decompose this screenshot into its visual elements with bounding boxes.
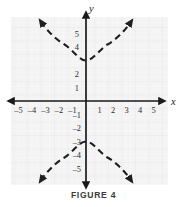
x-tick-label: 5 <box>151 106 155 115</box>
x-axis-label: x <box>170 96 176 107</box>
y-tick-label: –4 <box>72 151 82 160</box>
y-tick-label: –1 <box>72 111 81 120</box>
y-tick-label: –3 <box>72 138 81 147</box>
coordinate-plot: –5–4–3–2–112345 5421–1–2–3–4–5 y x <box>0 0 187 207</box>
x-tick-label: –3 <box>40 106 49 115</box>
y-tick-label: –2 <box>72 124 81 133</box>
x-tick-label: 2 <box>111 106 115 115</box>
x-tick-label: 3 <box>124 106 128 115</box>
x-tick-label: –5 <box>13 106 22 115</box>
y-tick-label: 5 <box>75 30 79 39</box>
y-tick-label: 1 <box>75 84 79 93</box>
x-tick-label: 1 <box>97 106 101 115</box>
y-tick-label: –5 <box>72 165 81 174</box>
figure-container: –5–4–3–2–112345 5421–1–2–3–4–5 y x FIGUR… <box>0 0 187 207</box>
x-tick-label: –2 <box>54 106 63 115</box>
figure-caption: FIGURE 4 <box>0 190 187 200</box>
y-tick-label: 2 <box>75 70 79 79</box>
x-tick-label: –4 <box>27 106 37 115</box>
y-axis-label: y <box>88 3 94 14</box>
